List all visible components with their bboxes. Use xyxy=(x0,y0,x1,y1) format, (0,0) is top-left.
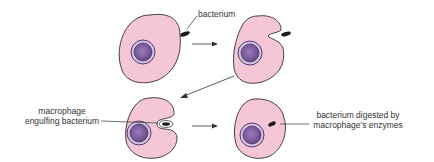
phagocytosis-diagram xyxy=(0,0,434,162)
bacterium-label: bacterium xyxy=(198,9,235,19)
macrophage-stage-4 xyxy=(234,99,285,158)
arrow-right-1 xyxy=(192,42,218,47)
digested-label-line1: bacterium digested by xyxy=(310,110,406,120)
engulfing-label-line1: macrophage xyxy=(22,106,102,116)
engulfing-label-line2: engulfing bacterium xyxy=(22,116,102,126)
arrow-diagonal xyxy=(180,76,234,98)
engulfing-label: macrophage engulfing bacterium xyxy=(22,106,102,126)
arrow-right-2 xyxy=(192,124,218,129)
bacterium-1 xyxy=(180,30,191,37)
bacterium-2 xyxy=(281,31,292,37)
digested-label: bacterium digested by macrophage's enzym… xyxy=(310,110,406,130)
macrophage-stage-1 xyxy=(119,14,180,82)
bacterium-3 xyxy=(162,122,170,126)
macrophage-stage-3 xyxy=(126,98,177,159)
macrophage-stage-2 xyxy=(233,16,283,84)
bacterium-pointer-line xyxy=(187,16,197,29)
digested-label-line2: macrophage's enzymes xyxy=(310,120,406,130)
